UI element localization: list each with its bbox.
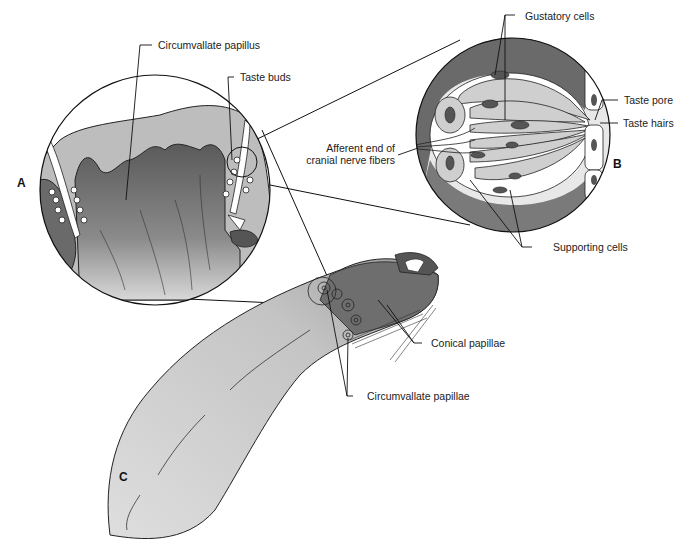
label-supporting-cells: Supporting cells: [553, 241, 628, 253]
label-circumvallate-papillus: Circumvallate papillus: [158, 39, 260, 51]
label-taste-buds: Taste buds: [240, 71, 291, 83]
panel-letter-c: C: [119, 470, 128, 484]
taste-anatomy-illustration: [0, 0, 693, 552]
label-conical-papillae: Conical papillae: [431, 337, 505, 349]
circle-b-taste-bud: [410, 30, 620, 240]
label-gustatory-cells: Gustatory cells: [525, 10, 594, 22]
panel-letter-a: A: [17, 176, 26, 190]
label-taste-pore: Taste pore: [624, 94, 673, 106]
circle-a-papillus-closeup: [40, 75, 270, 305]
label-afferent-line1: Afferent end of: [326, 142, 395, 154]
label-taste-hairs: Taste hairs: [623, 117, 674, 129]
label-afferent-line2: cranial nerve fibers: [306, 154, 395, 166]
label-circumvallate-papillae: Circumvallate papillae: [367, 390, 470, 402]
panel-letter-b: B: [613, 157, 622, 171]
